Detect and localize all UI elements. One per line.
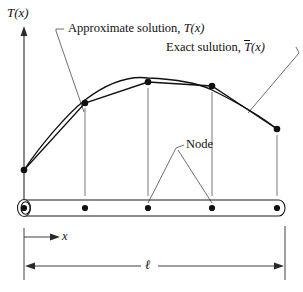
figure-container: T(x) Approximate solution, T(x) Exact su…	[0, 0, 303, 292]
exact-solution-label-math-bar: T	[244, 41, 251, 54]
curve-node-dot-3	[145, 79, 152, 86]
exact-solution-label: Exact sulution, T(x)	[166, 41, 265, 54]
exact-solution-label-math-arg: (x)	[251, 40, 265, 54]
x-axis-label-text: x	[62, 229, 68, 243]
approximate-solution-label-math: T(x)	[184, 21, 205, 35]
rod-node-dot-5	[274, 205, 280, 211]
exact-solution-label-text: Exact sulution,	[166, 40, 244, 54]
node-leader-group	[148, 145, 212, 203]
length-label: ℓ	[145, 258, 150, 271]
node-leader-line-right	[178, 150, 212, 203]
curve-node-dot-4	[209, 83, 216, 90]
curve-node-dots-group	[21, 79, 281, 174]
exact-leader-line	[248, 47, 299, 113]
approximate-leader-line	[56, 29, 84, 112]
exact-leader-group	[248, 47, 299, 113]
dim-arrowhead-left	[25, 262, 35, 269]
dim-arrowhead-right	[274, 262, 284, 269]
approximate-solution-polyline	[24, 82, 277, 170]
x-axis-arrow-group	[24, 228, 60, 252]
rod-node-dot-3	[145, 205, 151, 211]
curve-node-dot-1	[21, 167, 28, 174]
exact-solution-curve	[24, 78, 277, 170]
approximate-solution-label: Approximate solution, T(x)	[68, 22, 204, 35]
rod-node-dot-4	[209, 205, 215, 211]
node-label: Node	[186, 138, 213, 151]
y-axis-label: T(x)	[7, 6, 29, 19]
x-axis-label: x	[62, 230, 68, 243]
rod-group	[18, 200, 286, 217]
approximate-solution-label-text: Approximate solution,	[68, 21, 184, 35]
rod-node-dot-2	[82, 205, 88, 211]
y-axis-label-text: T(x)	[7, 5, 29, 20]
curve-node-dot-2	[82, 100, 89, 107]
node-leader-line-left	[148, 145, 184, 203]
rod-node-dot-1	[21, 205, 27, 211]
length-label-text: ℓ	[145, 257, 150, 272]
y-axis-arrowhead	[21, 26, 28, 36]
node-label-text: Node	[186, 137, 213, 151]
node-drop-lines-group	[85, 88, 277, 196]
y-axis-group	[21, 26, 28, 212]
x-arrowhead	[50, 233, 60, 240]
curve-node-dot-5	[274, 126, 281, 133]
rod-node-dots-group	[21, 205, 280, 211]
approximate-leader-group	[56, 29, 84, 112]
